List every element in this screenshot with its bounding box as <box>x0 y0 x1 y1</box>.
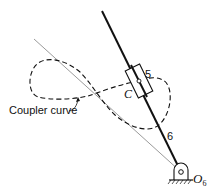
pivot-label: O6 <box>193 171 206 188</box>
coupler-curve-label: Coupler curve <box>9 104 77 116</box>
mechanism-diagram: Coupler curve 5 C 6 O6 <box>0 0 213 189</box>
slider-number-label: 5 <box>145 68 151 80</box>
point-c-pin <box>137 79 141 83</box>
link-number-label: 6 <box>167 130 173 142</box>
point-c-label: C <box>124 87 133 101</box>
ground-hatch-icon <box>168 180 191 184</box>
pivot-pin <box>179 170 184 175</box>
ground-pivot <box>168 163 193 184</box>
pivot-subscript: 6 <box>202 179 206 188</box>
